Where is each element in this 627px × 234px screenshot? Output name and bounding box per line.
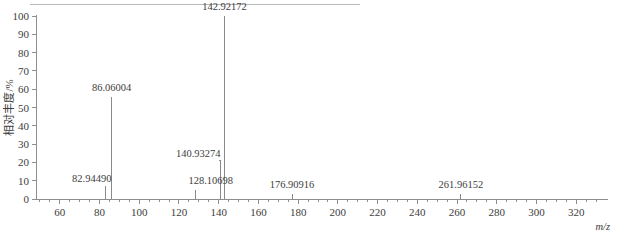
peak-label: 261.96152 [439,179,484,190]
peak-label: 140.93274 [176,148,221,159]
x-axis-tick-label: 180 [290,206,307,218]
spectrum-svg: 0102030405060708090100 60801001201401601… [0,0,627,234]
peak-label: 176.90916 [270,179,315,190]
x-axis-tick-label: 280 [488,206,505,218]
peak-labels: 82.9449086.06004128.10698140.93274142.92… [72,1,483,190]
x-axis-tick-label: 320 [568,206,585,218]
x-axis-tick-label: 60 [54,206,66,218]
y-axis-title: 相对丰度/% [2,79,15,135]
y-axis-tick-label: 10 [18,175,30,187]
peak-label: 128.10698 [188,175,233,186]
x-axis-tick-label: 300 [528,206,545,218]
x-axis-title: m/z [595,221,610,232]
x-axis-tick-label: 160 [250,206,267,218]
mass-spectrum-figure: 0102030405060708090100 60801001201401601… [0,0,627,234]
x-axis-tick-label: 200 [330,206,347,218]
spectrum-plot: 0102030405060708090100 60801001201401601… [0,0,627,234]
peak-label: 82.94490 [72,173,111,184]
peak-label: 142.92172 [202,1,247,12]
y-axis-tick-label: 90 [18,28,30,40]
x-axis: 6080100120140160180200220240260280300320 [36,199,608,218]
y-axis-tick-label: 60 [18,83,30,95]
y-axis-tick-label: 80 [18,47,30,59]
y-axis-tick-label: 70 [18,65,30,77]
x-axis-tick-label: 240 [409,206,426,218]
peak-label: 86.06004 [92,82,132,93]
x-axis-tick-label: 120 [171,206,188,218]
x-axis-tick-label: 80 [94,206,106,218]
y-axis-tick-label: 50 [18,102,30,114]
y-axis: 0102030405060708090100 [13,10,37,205]
x-axis-tick-label: 140 [210,206,227,218]
x-axis-tick-label: 100 [131,206,148,218]
y-axis-tick-label: 0 [24,193,30,205]
y-axis-tick-label: 20 [18,156,30,168]
x-axis-tick-label: 220 [369,206,386,218]
y-axis-tick-label: 40 [18,120,30,132]
y-axis-tick-label: 30 [18,138,30,150]
peak-series [105,16,461,199]
y-axis-tick-label: 100 [13,10,30,22]
x-axis-tick-label: 260 [449,206,466,218]
